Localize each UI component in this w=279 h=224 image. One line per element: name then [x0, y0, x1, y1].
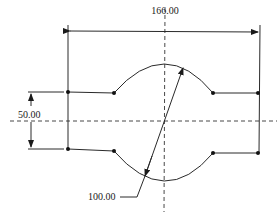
- height-dimension-label: 50.00: [18, 109, 41, 120]
- vertex-dot: [211, 91, 215, 95]
- drawing-canvas: 166.00 50.00 100.00: [0, 0, 279, 224]
- top-arc: [114, 64, 213, 93]
- vertex-dot: [256, 151, 260, 155]
- vertex-dot: [112, 149, 116, 153]
- width-dimension-label: 166.00: [151, 5, 179, 16]
- bottom-left-segment: [68, 149, 114, 151]
- vertex-dot: [66, 147, 70, 151]
- vertex-dot: [256, 91, 260, 95]
- right-extension-line: [259, 25, 260, 153]
- width-dimension-arrow: [70, 31, 258, 32]
- vertex-dot: [112, 91, 116, 95]
- diameter-leader: [120, 176, 145, 197]
- diameter-dimension-label: 100.00: [88, 191, 116, 202]
- diameter-arrow-bottom: [145, 156, 152, 176]
- vertex-dot: [211, 151, 215, 155]
- bottom-arc: [114, 151, 213, 181]
- top-left-segment: [68, 92, 114, 93]
- vertex-dot: [66, 90, 70, 94]
